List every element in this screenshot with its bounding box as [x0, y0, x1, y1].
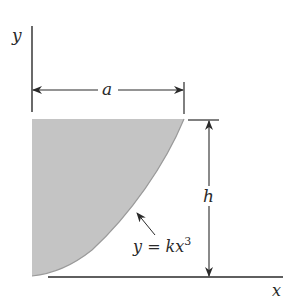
- height-label: h: [203, 186, 214, 206]
- x-axis-label: x: [272, 281, 281, 299]
- width-label: a: [102, 79, 112, 99]
- area-diagram: y x a h y = kx3: [0, 0, 296, 299]
- curve-equation: y = kx3: [132, 235, 191, 256]
- curve-pointer: [137, 213, 155, 235]
- curve-equation-base: y = kx: [132, 237, 184, 256]
- curve-equation-exponent: 3: [184, 235, 191, 248]
- y-axis-label: y: [11, 25, 22, 45]
